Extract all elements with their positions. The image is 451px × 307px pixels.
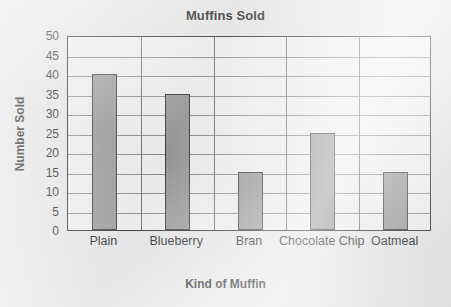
y-tick-label: 30	[46, 108, 59, 120]
bar-blueberry	[165, 94, 190, 231]
bar-plain	[92, 74, 117, 230]
y-tick-label: 35	[46, 89, 59, 101]
y-tick-label: 15	[46, 167, 59, 179]
x-tick-label: Oatmeal	[346, 234, 443, 249]
bar-chart: Muffins Sold Number Sold 504540353025201…	[0, 0, 451, 307]
y-axis-label-text: Number Sold	[13, 96, 27, 171]
bar-oatmeal	[383, 172, 408, 231]
y-axis-tick-labels: 50454035302520151050	[31, 36, 63, 231]
y-axis-label: Number Sold	[11, 36, 29, 231]
plot-area	[67, 36, 431, 231]
y-tick-label: 5	[52, 206, 59, 218]
y-tick-label: 40	[46, 69, 59, 81]
y-tick-label: 10	[46, 186, 59, 198]
y-tick-label: 25	[46, 128, 59, 140]
x-axis-label: Kind of Muffin	[0, 277, 451, 291]
bar-bran	[238, 172, 263, 231]
x-axis-tick-labels: PlainBlueberryBranChocolate ChipOatmeal	[67, 234, 431, 274]
y-tick-label: 50	[46, 30, 59, 42]
y-tick-label: 45	[46, 50, 59, 62]
bar-series	[68, 37, 430, 230]
bar-chocolate-chip	[310, 133, 335, 231]
chart-title: Muffins Sold	[0, 8, 451, 23]
y-tick-label: 20	[46, 147, 59, 159]
